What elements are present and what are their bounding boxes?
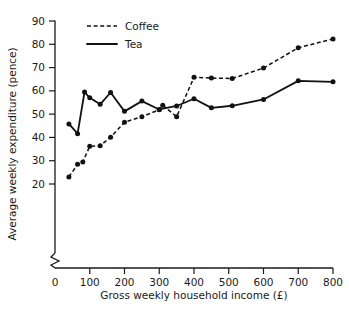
y-tick-label: 20 (32, 178, 45, 190)
y-tick-marks (49, 21, 55, 184)
y-tick-labels: 2030405060708090 (32, 15, 45, 190)
x-tick-label: 500 (219, 276, 239, 288)
data-point (80, 159, 85, 164)
series-tea (66, 78, 335, 136)
legend-label-tea: Tea (124, 38, 143, 50)
x-tick-label: 300 (149, 276, 169, 288)
y-tick-label: 70 (32, 61, 45, 73)
data-point (66, 175, 71, 180)
data-point (209, 76, 214, 81)
series-coffee (66, 36, 335, 179)
data-point (139, 114, 144, 119)
x-tick-label: 700 (288, 276, 308, 288)
legend-label-coffee: Coffee (125, 20, 159, 32)
data-point (98, 143, 103, 148)
data-point (82, 90, 87, 95)
data-point (139, 99, 144, 104)
data-point (75, 131, 80, 136)
y-axis: 2030405060708090 (32, 15, 59, 268)
x-tick-label: 600 (253, 276, 273, 288)
y-tick-label: 90 (32, 15, 45, 27)
x-tick-label: 0 (52, 276, 59, 288)
data-point (98, 102, 103, 107)
data-point (331, 36, 336, 41)
x-tick-label: 200 (114, 276, 134, 288)
x-tick-labels: 0100200300400500600700800 (52, 276, 343, 288)
y-tick-label: 50 (32, 108, 45, 120)
data-point (230, 76, 235, 81)
series-line-coffee (69, 39, 333, 177)
data-point (122, 120, 127, 125)
data-point (157, 107, 162, 112)
data-point (296, 78, 301, 83)
data-point (296, 45, 301, 50)
x-axis: 0100200300400500600700800 (52, 268, 343, 288)
data-point (261, 66, 266, 71)
data-point (108, 135, 113, 140)
chart-container: 2030405060708090 01002003004005006007008… (0, 0, 349, 317)
data-point (87, 144, 92, 149)
data-point (261, 97, 266, 102)
data-point (75, 162, 80, 167)
chart-legend: Coffee Tea (87, 20, 159, 50)
data-point (331, 79, 336, 84)
data-series-layer (66, 36, 335, 179)
y-tick-label: 80 (32, 38, 45, 50)
series-line-tea (69, 81, 333, 134)
data-point (87, 95, 92, 100)
x-tick-label: 100 (80, 276, 100, 288)
data-point (192, 96, 197, 101)
y-tick-label: 60 (32, 84, 45, 96)
y-tick-label: 30 (32, 154, 45, 166)
data-point (108, 90, 113, 95)
data-point (160, 103, 165, 108)
data-point (66, 121, 71, 126)
y-axis-break-zigzag (51, 253, 59, 268)
data-point (230, 103, 235, 108)
data-point (174, 114, 179, 119)
x-tick-label: 800 (323, 276, 343, 288)
y-axis-title: Average weekly expenditure (pence) (6, 47, 18, 240)
line-chart-plot: 2030405060708090 01002003004005006007008… (0, 0, 349, 317)
x-tick-label: 400 (184, 276, 204, 288)
data-point (192, 75, 197, 80)
data-point (174, 103, 179, 108)
x-tick-marks (90, 268, 333, 274)
data-point (209, 105, 214, 110)
data-point (122, 109, 127, 114)
y-tick-label: 40 (32, 131, 45, 143)
x-axis-title: Gross weekly household income (£) (100, 289, 287, 301)
